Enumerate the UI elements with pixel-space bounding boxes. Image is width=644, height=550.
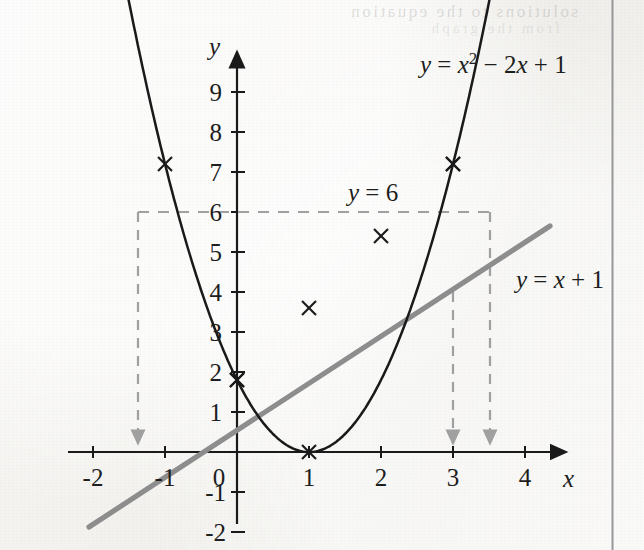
y-tick-label--1: -1 <box>205 479 226 506</box>
x-tick-label--1: -1 <box>155 464 176 491</box>
axes-group <box>68 52 566 532</box>
x-tick-label--2: -2 <box>83 464 104 491</box>
x-tick-label-4: 4 <box>519 464 532 491</box>
x-tick-label-3: 3 <box>447 464 460 491</box>
y-tick-label-1: 1 <box>210 399 223 426</box>
drop-arrows-group <box>138 212 490 444</box>
y-tick-label-2: 2 <box>210 359 223 386</box>
y-tick-label-7: 7 <box>210 159 223 186</box>
graph-figure: solutions to the equation from the graph <box>0 0 644 550</box>
y-tick-label-3: 3 <box>210 319 223 346</box>
parabola-equation-label: y = x2 − 2x + 1 <box>417 49 567 78</box>
line-equation-label: y = x + 1 <box>513 266 604 293</box>
y-tick-label-5: 5 <box>210 239 223 266</box>
y-tick-label-4: 4 <box>210 279 223 306</box>
graph-svg: x y -2 -1 0 1 2 3 4 9 8 7 6 5 4 3 2 1 -1… <box>0 0 644 550</box>
y-axis-label: y <box>206 33 221 60</box>
x-tick-label-1: 1 <box>303 464 316 491</box>
y-equals-6-label: y = 6 <box>345 179 398 206</box>
y-tick-label--2: -2 <box>205 519 226 546</box>
x-axis-label: x <box>562 465 574 492</box>
y-tick-label-6: 6 <box>210 199 223 226</box>
y-tick-label-8: 8 <box>210 119 223 146</box>
x-tick-label-2: 2 <box>375 464 388 491</box>
y-tick-label-9: 9 <box>210 79 223 106</box>
